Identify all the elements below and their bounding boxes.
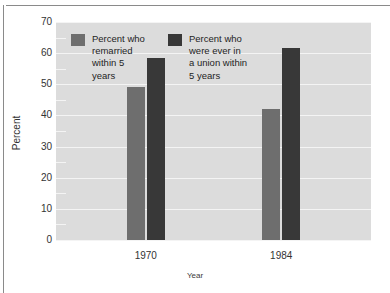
bar-1984-series-1: [262, 109, 280, 240]
gridline-y: [56, 22, 371, 23]
legend-label-series-a: Percent who remarried within 5 years: [92, 33, 145, 82]
gridline-y: [56, 84, 371, 85]
legend-swatch-series-b: [168, 34, 182, 46]
gridline-y-minor: [56, 38, 66, 39]
x-tick-label: 1970: [116, 250, 176, 261]
y-tick-label: 60: [4, 48, 52, 58]
y-tick-label: 70: [4, 17, 52, 27]
gridline-y: [56, 209, 371, 210]
x-tick-label: 1984: [251, 250, 311, 261]
y-tick-label: 20: [4, 173, 52, 183]
bar-1970-series-1: [127, 87, 145, 240]
gridline-y: [56, 240, 371, 241]
bar-1970-series-2: [147, 58, 165, 240]
gridline-y-minor: [56, 224, 66, 225]
y-tick-label: 50: [4, 79, 52, 89]
legend-entry-remarried: Percent who remarried within 5 years: [71, 33, 145, 82]
gridline-y: [56, 178, 371, 179]
y-tick-label: 10: [4, 204, 52, 214]
gridline-y-minor: [56, 69, 66, 70]
gridline-y: [56, 147, 371, 148]
gridline-y: [56, 115, 371, 116]
gridline-y-minor: [56, 193, 66, 194]
legend-label-series-b: Percent who were ever in a union within …: [189, 33, 247, 82]
y-axis-title: Percent: [12, 103, 22, 163]
bar-1984-series-2: [282, 48, 300, 240]
legend-entry-ever-in-union: Percent who were ever in a union within …: [168, 33, 247, 82]
gridline-y-minor: [56, 100, 66, 101]
legend-swatch-series-a: [71, 34, 85, 46]
y-axis-tick-labels: 010203040506070: [0, 0, 52, 293]
gridline-y-minor: [56, 131, 66, 132]
x-axis-title: Year: [0, 271, 390, 280]
bar-chart-figure: 010203040506070 Percent 19701984 Year Pe…: [0, 0, 390, 293]
gridline-y-minor: [56, 162, 66, 163]
y-tick-label: 0: [4, 235, 52, 245]
